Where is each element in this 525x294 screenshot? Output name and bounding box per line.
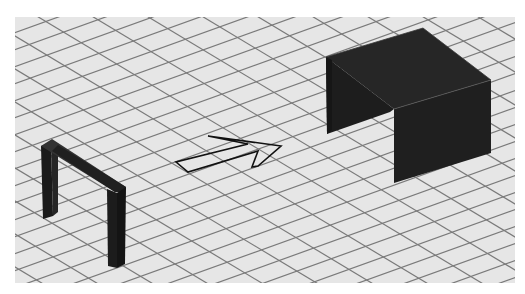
diagram-canvas	[0, 0, 525, 294]
